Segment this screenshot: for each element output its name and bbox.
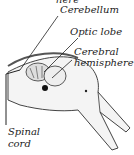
label-spinal: Spinal <box>8 126 40 137</box>
label-cerebellum: Cerebellum <box>60 4 119 15</box>
label-optic-lobe: Optic lobe <box>70 26 122 37</box>
label-hemisphere: hemisphere <box>74 57 134 68</box>
label-cerebral: Cerebral <box>74 46 119 57</box>
label-cord: cord <box>8 138 31 149</box>
